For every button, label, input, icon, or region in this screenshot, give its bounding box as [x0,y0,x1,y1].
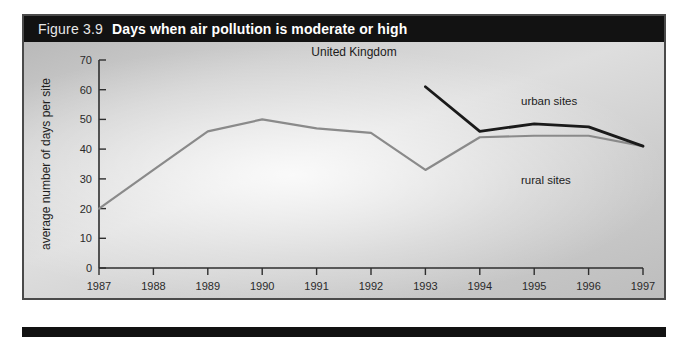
x-tick-label-1990: 1990 [250,280,274,292]
y-tick-label-60: 60 [80,84,92,96]
y-tick-label-10: 10 [80,232,92,244]
x-axis-ticks [99,268,643,275]
figure-number: Figure 3.9 [38,21,103,37]
y-tick-label-30: 30 [80,173,92,185]
x-tick-label-1994: 1994 [468,280,492,292]
x-tick-label-1988: 1988 [141,280,165,292]
figure-panel: Figure 3.9 Days when air pollution is mo… [22,14,666,300]
figure-title: Days when air pollution is moderate or h… [112,21,407,37]
urban-sites-label: urban sites [521,95,578,107]
x-tick-label-1987: 1987 [87,280,111,292]
x-tick-label-1997: 1997 [631,280,655,292]
x-tick-label-1991: 1991 [304,280,328,292]
y-axis-title: average number of days per site [39,78,53,250]
rural-sites-label: rural sites [521,174,571,186]
x-tick-label-1996: 1996 [576,280,600,292]
bottom-rule [22,327,666,337]
y-tick-label-50: 50 [80,113,92,125]
x-tick-label-1993: 1993 [413,280,437,292]
region-annotation: United Kingdom [311,45,396,59]
plot-area: 0 10 20 30 40 50 60 70 average number of… [24,42,664,298]
y-tick-label-0: 0 [86,262,92,274]
rural-sites-line [99,119,643,208]
x-tick-label-1989: 1989 [196,280,220,292]
y-tick-label-20: 20 [80,203,92,215]
source-note: Source: DETR [580,296,651,298]
x-tick-label-1992: 1992 [359,280,383,292]
line-chart: 0 10 20 30 40 50 60 70 average number of… [24,42,664,298]
figure-title-bar: Figure 3.9 Days when air pollution is mo… [24,16,664,42]
x-tick-label-1995: 1995 [522,280,546,292]
y-axis-ticks [99,60,106,268]
y-tick-label-40: 40 [80,143,92,155]
y-tick-label-70: 70 [80,54,92,66]
